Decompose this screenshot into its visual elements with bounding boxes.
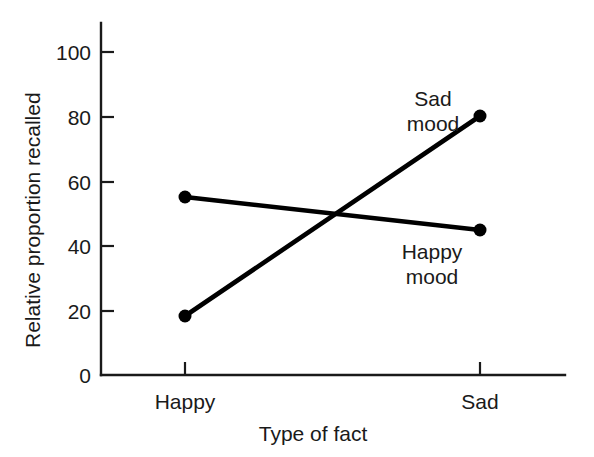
x-axis-title: Type of fact <box>259 422 368 445</box>
data-point-sad-mood-sad <box>474 110 487 123</box>
series-label-sad-mood-line1: Sad <box>414 87 451 110</box>
data-point-sad-mood-happy <box>179 310 192 323</box>
data-point-happy-mood-happy <box>179 191 192 204</box>
y-axis-title: Relative proportion recalled <box>21 92 44 348</box>
y-tick-label-80: 80 <box>68 106 91 129</box>
data-point-happy-mood-sad <box>474 224 487 237</box>
y-tick-label-100: 100 <box>56 41 91 64</box>
x-tick-label-sad: Sad <box>461 390 498 413</box>
series-label-happy-mood-line1: Happy <box>402 240 463 263</box>
series-label-sad-mood-line2: mood <box>407 112 460 135</box>
y-tick-label-40: 40 <box>68 235 91 258</box>
line-chart-canvas: 100 80 60 40 20 0 Happy Sad Relative pro… <box>0 0 594 457</box>
series-label-happy-mood-line2: mood <box>406 265 459 288</box>
x-tick-label-happy: Happy <box>155 390 216 413</box>
chart-figure: 100 80 60 40 20 0 Happy Sad Relative pro… <box>0 0 594 457</box>
y-tick-label-20: 20 <box>68 300 91 323</box>
y-tick-label-60: 60 <box>68 171 91 194</box>
y-tick-label-0: 0 <box>79 364 91 387</box>
